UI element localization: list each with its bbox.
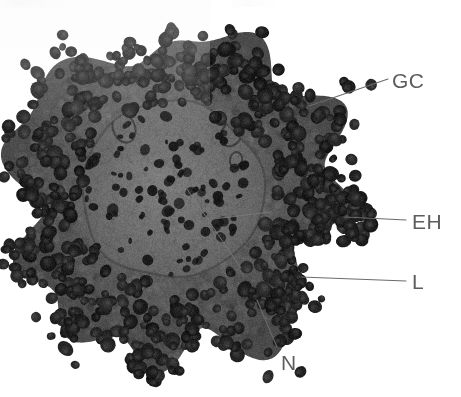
micrograph-figure: GC EH L N bbox=[0, 0, 461, 397]
label-n: N bbox=[281, 352, 297, 373]
label-l: L bbox=[412, 271, 424, 292]
scan-artifact-strip bbox=[0, 0, 461, 7]
label-eh: EH bbox=[412, 211, 442, 232]
label-gc: GC bbox=[392, 70, 425, 91]
micrograph-image bbox=[0, 0, 461, 397]
